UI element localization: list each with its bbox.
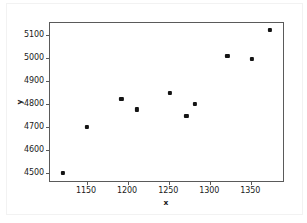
- data-point: [193, 102, 197, 106]
- y-tick-mark: [46, 35, 50, 36]
- y-tick-mark: [46, 58, 50, 59]
- x-tick-mark: [128, 181, 129, 185]
- y-tick-mark: [46, 150, 50, 151]
- data-point: [85, 125, 89, 129]
- y-tick-mark: [46, 127, 50, 128]
- data-point: [61, 171, 65, 175]
- x-tick-mark: [87, 181, 88, 185]
- y-tick-label: 5100: [24, 29, 44, 38]
- data-point: [250, 57, 254, 61]
- x-tick-mark: [169, 181, 170, 185]
- data-point: [119, 97, 123, 101]
- data-point: [268, 28, 272, 32]
- y-tick-mark: [46, 104, 50, 105]
- y-tick-label: 5000: [24, 52, 44, 61]
- x-tick-mark: [251, 181, 252, 185]
- x-axis-title: x: [164, 198, 169, 207]
- y-tick-mark: [46, 81, 50, 82]
- data-point: [225, 54, 229, 58]
- y-tick-label: 4500: [24, 167, 44, 176]
- x-tick-label: 1350: [240, 186, 260, 195]
- x-tick-label: 1250: [158, 186, 178, 195]
- y-tick-label: 4900: [24, 75, 44, 84]
- y-tick-label: 4700: [24, 121, 44, 130]
- x-tick-label: 1300: [199, 186, 219, 195]
- y-tick-label: 4800: [24, 98, 44, 107]
- figure-canvas: 11501200125013001350 4500460047004800490…: [0, 0, 307, 223]
- data-point: [168, 90, 172, 94]
- x-tick-label: 1200: [117, 186, 137, 195]
- data-point: [184, 113, 188, 117]
- data-point: [135, 107, 139, 111]
- y-tick-mark: [46, 173, 50, 174]
- y-tick-label: 4600: [24, 144, 44, 153]
- scatter-plot-axes: [49, 22, 284, 182]
- y-axis-title: y: [15, 100, 24, 105]
- x-tick-mark: [210, 181, 211, 185]
- x-tick-label: 1150: [76, 186, 96, 195]
